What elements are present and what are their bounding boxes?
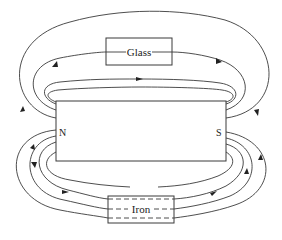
- arrow-icon: [244, 168, 249, 174]
- south-pole-label: S: [216, 127, 222, 138]
- field-line-top-innermost: [48, 87, 233, 102]
- glass-label: Glass: [127, 46, 151, 58]
- bar-magnet: [56, 101, 226, 161]
- arrow-icon: [62, 190, 69, 194]
- north-pole-label: N: [59, 127, 66, 138]
- arrow-icon: [30, 144, 35, 150]
- arrow-icon: [31, 162, 37, 168]
- arrow-icon: [216, 58, 222, 64]
- arrow-icon: [254, 109, 259, 116]
- arrow-icon: [52, 61, 58, 67]
- arrow-icon: [136, 77, 143, 81]
- iron-label: Iron: [132, 203, 151, 215]
- magnet-field-diagram: Glass Iron N S: [0, 0, 282, 240]
- field-line-top-inner: [44, 79, 235, 104]
- arrow-icon: [20, 106, 25, 112]
